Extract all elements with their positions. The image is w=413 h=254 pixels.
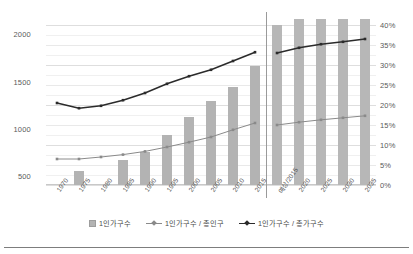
y-axis-right-tick: 5% (380, 161, 413, 170)
data-point-marker (364, 115, 367, 118)
data-point-marker (56, 158, 59, 161)
legend-item[interactable]: 1인가구수 (89, 218, 131, 228)
legend-label: 1인가구수 / 총가구수 (258, 218, 324, 228)
data-point-marker (122, 153, 125, 156)
y-axis-right-tick: 20% (380, 101, 413, 110)
data-point-marker (320, 119, 323, 122)
y-axis-right-tick: 30% (380, 61, 413, 70)
y-axis-right-tick: 35% (380, 41, 413, 50)
plot-area (46, 25, 376, 185)
data-point-marker (298, 121, 301, 124)
line-path (277, 39, 365, 53)
data-point-marker (232, 129, 235, 132)
y-axis-right-tick: 15% (380, 121, 413, 130)
chart-container: 500100015002000 0%5%10%15%20%25%30%35%40… (0, 0, 413, 254)
data-point-marker (276, 52, 279, 55)
data-point-marker (320, 43, 323, 46)
data-point-marker (78, 107, 81, 110)
legend-item[interactable]: 1인가구수 / 총인구 (146, 218, 224, 228)
footer-divider (4, 247, 409, 248)
panel-divider (266, 12, 267, 198)
data-point-marker (122, 99, 125, 102)
y-axis-left-tick: 2000 (0, 30, 31, 39)
data-point-marker (276, 124, 279, 127)
data-point-marker (254, 51, 257, 54)
data-point-marker (144, 92, 147, 95)
data-point-marker (364, 38, 367, 41)
legend-line-swatch-icon (239, 220, 255, 227)
chart-legend: 1인가구수1인가구수 / 총인구1인가구수 / 총가구수 (0, 218, 413, 228)
data-point-marker (56, 102, 59, 105)
data-point-marker (78, 158, 81, 161)
legend-label: 1인가구수 / 총인구 (165, 218, 224, 228)
data-point-marker (166, 83, 169, 86)
y-axis-right-tick: 25% (380, 81, 413, 90)
legend-item[interactable]: 1인가구수 / 총가구수 (239, 218, 324, 228)
line-path (57, 123, 255, 159)
legend-label: 1인가구수 (99, 218, 131, 228)
line-series-group (46, 25, 376, 185)
line-path (57, 52, 255, 108)
legend-bar-swatch-icon (89, 220, 96, 227)
y-axis-right-tick: 40% (380, 21, 413, 30)
data-point-marker (210, 69, 213, 72)
y-axis-right-tick: 10% (380, 141, 413, 150)
data-point-marker (342, 117, 345, 120)
data-point-marker (342, 41, 345, 44)
data-point-marker (254, 122, 257, 125)
data-point-marker (188, 141, 191, 144)
data-point-marker (232, 60, 235, 63)
legend-line-swatch-icon (146, 220, 162, 227)
data-point-marker (210, 136, 213, 139)
y-axis-right-tick: 0% (380, 181, 413, 190)
y-axis-left-tick: 500 (0, 172, 31, 181)
y-axis-left-tick: 1500 (0, 78, 31, 87)
data-point-marker (166, 146, 169, 149)
data-point-marker (188, 75, 191, 78)
y-axis-left-tick: 1000 (0, 125, 31, 134)
data-point-marker (100, 105, 103, 108)
data-point-marker (144, 150, 147, 153)
data-point-marker (100, 156, 103, 159)
data-point-marker (298, 47, 301, 50)
